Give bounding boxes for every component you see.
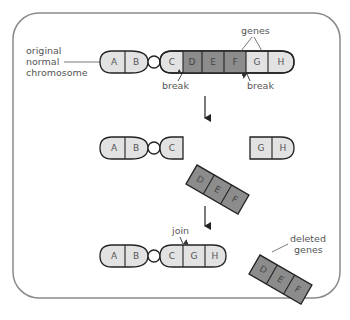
gene-F: F: [232, 57, 237, 67]
stage2-gene-G: G: [258, 143, 265, 153]
break-label-left: break: [162, 80, 189, 91]
centromere: [148, 56, 160, 68]
gene-E: E: [210, 57, 216, 67]
gene-B: B: [133, 57, 139, 67]
genes-label: genes: [241, 25, 270, 36]
gene-C: C: [169, 57, 175, 67]
stage3-gene-A: A: [111, 251, 118, 261]
stage3-gene-B: B: [133, 251, 139, 261]
break-label-right: break: [247, 80, 274, 91]
gene-A: A: [111, 57, 118, 67]
stage2-gene-B: B: [133, 143, 139, 153]
stage2-centromere: [148, 142, 160, 154]
gene-H: H: [278, 57, 285, 67]
stage3-gene-G: G: [191, 251, 198, 261]
join-label: join: [171, 225, 189, 236]
gene-G: G: [254, 57, 261, 67]
stage2-gene-A: A: [111, 143, 118, 153]
gene-D: D: [189, 57, 196, 67]
left-arm: [100, 51, 148, 73]
stage2-gene-C: C: [169, 143, 175, 153]
stage3-gene-C: C: [169, 251, 175, 261]
stage3-centromere: [148, 250, 160, 262]
chromosome-deletion-diagram: original normal chromosome A B C D E F G…: [0, 0, 350, 320]
stage2-gene-H: H: [280, 143, 287, 153]
stage3-gene-H: H: [212, 251, 219, 261]
